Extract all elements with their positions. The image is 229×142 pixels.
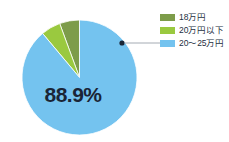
legend-label-20-25man: 20〜25万円 <box>179 39 224 48</box>
legend-swatch-18man <box>160 14 175 21</box>
legend-swatch-20-25man <box>160 40 175 47</box>
pie-percentage-label: 88.9% <box>27 83 119 107</box>
legend: 18万円 20万円以下 20〜25万円 <box>160 11 229 50</box>
legend-label-20man-ika: 20万円以下 <box>179 26 224 35</box>
legend-item-20man-ika[interactable]: 20万円以下 <box>160 24 229 36</box>
pie-chart-figure: 88.9% 18万円 20万円以下 20〜25万円 <box>0 0 229 142</box>
legend-item-18man[interactable]: 18万円 <box>160 11 229 23</box>
legend-label-18man: 18万円 <box>179 13 206 22</box>
legend-swatch-20man-ika <box>160 27 175 34</box>
leader-dot-icon <box>119 40 124 45</box>
clipped-caption-text <box>2 0 62 8</box>
legend-item-20-25man[interactable]: 20〜25万円 <box>160 37 229 49</box>
